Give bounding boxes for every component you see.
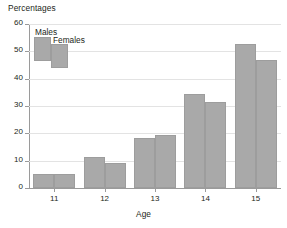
bar-female-age-13 xyxy=(155,135,176,188)
x-axis-tick xyxy=(105,189,106,192)
y-axis-tick-label-wrap: 30 xyxy=(0,101,23,111)
bar-chart: Percentages 0102030405060 1112131415 Age… xyxy=(0,0,287,228)
y-axis-tick-label-wrap: 60 xyxy=(0,19,23,29)
bar-group xyxy=(184,24,226,188)
legend-swatch-females xyxy=(51,44,68,68)
y-axis-tick-label: 20 xyxy=(1,128,23,136)
chart-title: Percentages xyxy=(8,3,56,13)
y-axis-tick-label-wrap: 10 xyxy=(0,156,23,166)
bar-male-age-12 xyxy=(84,157,105,188)
chart-legend: Males Females xyxy=(34,27,104,67)
bar-female-age-15 xyxy=(256,60,277,188)
x-axis-tick xyxy=(155,189,156,192)
y-axis-tick-label: 30 xyxy=(1,101,23,109)
x-axis-title: Age xyxy=(0,209,287,219)
x-axis-tick-label: 14 xyxy=(185,194,225,203)
y-axis-tick-label: 50 xyxy=(1,46,23,54)
y-axis-tick-label-wrap: 50 xyxy=(0,46,23,56)
bar-male-age-11 xyxy=(33,174,54,188)
x-axis-tick-label: 13 xyxy=(135,194,175,203)
bar-female-age-11 xyxy=(54,174,75,188)
y-axis-tick-label-wrap: 40 xyxy=(0,74,23,84)
legend-label-females: Females xyxy=(53,35,85,45)
y-axis-tick-label: 0 xyxy=(1,183,23,191)
y-axis-tick-label: 60 xyxy=(1,19,23,27)
bar-female-age-12 xyxy=(105,163,126,188)
x-axis-tick xyxy=(54,189,55,192)
bar-group xyxy=(235,24,277,188)
x-axis-tick xyxy=(205,189,206,192)
y-axis-tick-label: 40 xyxy=(1,74,23,82)
x-axis-tick-label: 12 xyxy=(85,194,125,203)
bar-male-age-14 xyxy=(184,94,205,188)
legend-swatch-males xyxy=(34,37,51,61)
y-axis-tick-label: 10 xyxy=(1,156,23,164)
bar-male-age-13 xyxy=(134,138,155,188)
x-axis-tick-label: 11 xyxy=(34,194,74,203)
y-axis-tick-label-wrap: 20 xyxy=(0,128,23,138)
bar-group xyxy=(134,24,176,188)
bar-male-age-15 xyxy=(235,44,256,188)
y-axis-tick-label-wrap: 0 xyxy=(0,183,23,193)
bar-female-age-14 xyxy=(205,102,226,188)
x-axis-tick-label: 15 xyxy=(236,194,276,203)
x-axis-tick xyxy=(256,189,257,192)
